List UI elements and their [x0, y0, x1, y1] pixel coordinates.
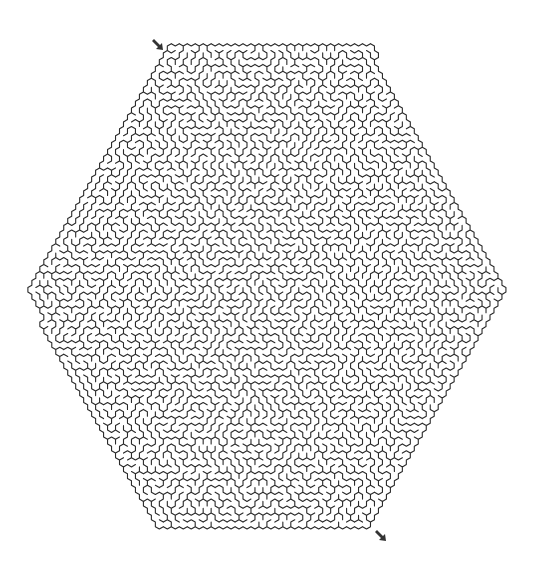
hexagonal-maze-board[interactable] — [0, 0, 533, 567]
